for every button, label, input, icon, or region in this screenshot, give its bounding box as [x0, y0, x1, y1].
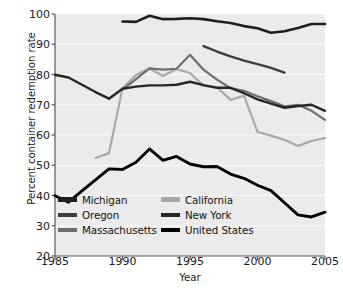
x-axis-tick-labels: 19851990199520002005	[0, 256, 333, 272]
legend-label: Michigan	[82, 194, 127, 206]
legend-label: United States	[185, 224, 253, 236]
x-tick-label: 2000	[228, 256, 288, 267]
legend-swatch	[58, 228, 77, 233]
legend-swatch	[58, 197, 77, 202]
legend-entry-united-states: United States	[161, 224, 288, 236]
legend-label: California	[185, 194, 233, 206]
legend-label: Massachusetts	[82, 224, 157, 236]
x-tick-label: 1990	[93, 256, 153, 267]
legend-label: New York	[185, 209, 231, 221]
legend-swatch	[161, 197, 180, 202]
legend-entry-new-york: New York	[161, 209, 288, 221]
x-tick-label: 1995	[160, 256, 220, 267]
legend-entry-california: California	[161, 194, 288, 206]
legend-label: Oregon	[82, 209, 119, 221]
legend-entry-massachusetts: Massachusetts	[58, 224, 161, 236]
legend-entry-oregon: Oregon	[58, 209, 161, 221]
x-tick-label: 1985	[25, 256, 85, 267]
legend-swatch	[161, 228, 180, 233]
x-tick-label: 2005	[295, 256, 343, 267]
legend-swatch	[58, 213, 77, 218]
x-axis-title: Year	[55, 272, 325, 283]
legend-entry-michigan: Michigan	[58, 194, 161, 206]
legend-swatch	[161, 213, 180, 218]
chart-legend: MichiganCaliforniaOregonNew YorkMassachu…	[58, 192, 288, 238]
